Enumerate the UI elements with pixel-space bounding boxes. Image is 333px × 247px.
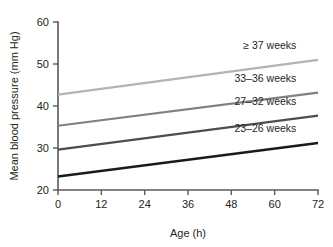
figure-container: 2030405060 0122436486072 ≥ 37 weeks33–36…	[0, 0, 333, 247]
series-label-4: 23–26 weeks	[234, 122, 296, 134]
series-label-3: 27–32 weeks	[234, 95, 296, 107]
x-tick-label: 0	[55, 198, 61, 210]
y-tick-label: 60	[37, 16, 49, 28]
series-line-4	[58, 143, 318, 177]
x-tick-label: 24	[139, 198, 151, 210]
y-tick-label: 50	[37, 58, 49, 70]
y-axis-title: Mean blood pressure (mm Hg)	[8, 31, 20, 180]
x-tick-label: 72	[312, 198, 324, 210]
x-axis-ticks: 0122436486072	[55, 190, 324, 210]
x-tick-label: 60	[269, 198, 281, 210]
x-tick-label: 48	[225, 198, 237, 210]
y-tick-label: 40	[37, 100, 49, 112]
x-tick-label: 36	[182, 198, 194, 210]
series-label-1: ≥ 37 weeks	[243, 39, 296, 51]
y-tick-label: 30	[37, 142, 49, 154]
series-label-2: 33–36 weeks	[234, 72, 296, 84]
line-chart: 2030405060 0122436486072 ≥ 37 weeks33–36…	[0, 0, 333, 247]
y-tick-label: 20	[37, 184, 49, 196]
y-axis-ticks: 2030405060	[37, 16, 58, 196]
x-axis-title: Age (h)	[170, 227, 206, 239]
x-tick-label: 12	[95, 198, 107, 210]
